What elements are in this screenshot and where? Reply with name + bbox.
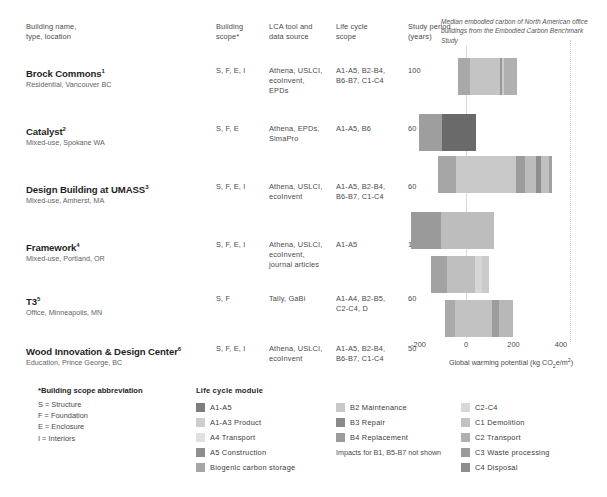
building-name: Wood Innovation & Design Center6 [26, 344, 190, 357]
chart-bar-segment [455, 300, 493, 337]
legend-swatch-icon [196, 463, 205, 472]
legend-swatch-icon [461, 418, 470, 427]
life-cycle-legend-title: Life cycle module [196, 386, 596, 395]
chart-bar-segment [447, 256, 476, 293]
legend-swatch-icon [336, 418, 345, 427]
row-life-cycle-scope: A1-A5, B2-B4,B6-B7, C1-C4 [336, 66, 404, 86]
x-axis-tick-label: -200 [411, 340, 426, 349]
legend-item-label: C4 Disposal [475, 463, 518, 472]
chart-bar-segment [438, 156, 457, 193]
row-building-scope: S, F, E, I [216, 182, 262, 192]
legend-footnote: Impacts for B1, B5-B7 not shown [336, 448, 476, 457]
legend-item-label: A4 Transport [210, 433, 255, 442]
legend-swatch-icon [336, 403, 345, 412]
row-life-cycle-scope: A1-A4, B2-B5,C2-C4, D [336, 294, 404, 314]
legend-item: C2-C4 [461, 400, 601, 415]
column-header-life-cycle-scope: Life cyclescope [336, 22, 404, 41]
chart-bar [419, 114, 477, 151]
life-cycle-legend-column-b: B2 MaintenanceB3 RepairB4 ReplacementImp… [336, 400, 476, 457]
chart-bar-segment [458, 58, 469, 95]
legend-item: Biogenic carbon storage [196, 460, 336, 475]
legend-item: B3 Repair [336, 415, 476, 430]
figure-root: Building name,type, location Buildingsco… [0, 0, 607, 497]
row-life-cycle-scope: A1-A5 [336, 240, 404, 250]
chart-bar [411, 212, 494, 249]
life-cycle-module-legend: Life cycle module A1-A5A1-A3 ProductA4 T… [196, 386, 596, 400]
row-building-cell: Framework4Mixed-use, Portland, OR [26, 240, 190, 264]
chart-bar-segment [549, 156, 552, 193]
legend-item: C1 Demolition [461, 415, 601, 430]
building-scope-legend-item: S = Structure [38, 399, 188, 410]
chart-bar-segment [445, 300, 455, 337]
x-axis-tick-label: 200 [507, 340, 519, 349]
chart-bar [431, 256, 489, 293]
row-lca-tool: Tally, GaBi [269, 294, 332, 304]
building-name: Design Building at UMASS3 [26, 182, 190, 195]
x-axis: -2000200400 [415, 340, 607, 354]
life-cycle-legend-column-a: A1-A5A1-A3 ProductA4 TransportA5 Constru… [196, 400, 336, 475]
chart-bar-segment [525, 156, 536, 193]
x-axis-title-pre: Global warming potential (kg CO [449, 358, 553, 367]
column-header-building-scope: Buildingscope* [216, 22, 262, 41]
chart-bar-segment [431, 256, 447, 293]
legend-item: A1-A5 [196, 400, 336, 415]
legend-item-label: C2-C4 [475, 403, 498, 412]
building-type-location: Education, Prince George, BC [26, 358, 190, 368]
row-building-scope: S, F, E, I [216, 66, 262, 76]
building-scope-legend-item: F = Foundation [38, 410, 188, 421]
column-header-lca-tool: LCA tool anddata source [269, 22, 332, 41]
chart-bar-segment [482, 256, 489, 293]
row-building-cell: Catalyst2Mixed-use, Spokane WA [26, 124, 190, 148]
row-building-scope: S, F [216, 294, 262, 304]
legend-item: A5 Construction [196, 445, 336, 460]
legend-swatch-icon [461, 463, 470, 472]
row-building-cell: Design Building at UMASS3Mixed-use, Amhe… [26, 182, 190, 206]
legend-item-label: A1-A5 [210, 403, 232, 412]
legend-item-label: C2 Transport [475, 433, 521, 442]
chart-bar-segment [442, 114, 477, 151]
chart-bar [458, 58, 517, 95]
x-axis-tick-label: 400 [555, 340, 567, 349]
building-scope-legend-title: *Building scope abbreviation [38, 386, 188, 395]
legend-item: A4 Transport [196, 430, 336, 445]
building-name-footnote: 6 [178, 346, 181, 352]
legend-swatch-icon [196, 418, 205, 427]
chart-bar-segment [541, 156, 549, 193]
row-life-cycle-scope: A1-A5, B6 [336, 124, 404, 134]
building-name: Catalyst2 [26, 124, 190, 137]
building-name-footnote: 1 [101, 68, 104, 74]
row-life-cycle-scope: A1-A5, B2-B4,B6-B7, C1-C4 [336, 344, 404, 364]
legend-swatch-icon [461, 433, 470, 442]
legend-item: B4 Replacement [336, 430, 476, 445]
life-cycle-legend-column-c: C2-C4C1 DemolitionC2 TransportC3 Waste p… [461, 400, 601, 475]
row-building-cell: Brock Commons1Residential, Vancouver BC [26, 66, 190, 90]
legend-swatch-icon [336, 433, 345, 442]
legend-item-label: B2 Maintenance [350, 403, 407, 412]
legend-item-label: B4 Replacement [350, 433, 408, 442]
legend-item-label: B3 Repair [350, 418, 385, 427]
column-header-building-name: Building name,type, location [26, 22, 190, 41]
chart-bar-segment [419, 114, 442, 151]
legend-swatch-icon [196, 448, 205, 457]
building-name-footnote: 4 [76, 242, 79, 248]
chart-panel: Median embodied carbon of North American… [415, 0, 607, 380]
row-lca-tool: Athena, EPDs,SimaPro [269, 124, 332, 144]
building-scope-legend-list: S = StructureF = FoundationE = Enclosure… [38, 399, 188, 444]
legend-area: *Building scope abbreviation S = Structu… [0, 386, 607, 497]
chart-bar-segment [516, 156, 525, 193]
row-lca-tool: Athena, USLCI,ecoInvent,EPDs [269, 66, 332, 95]
legend-item-label: C3 Waste processing [475, 448, 550, 457]
chart-bar-segment [456, 156, 516, 193]
chart-bar-segment [492, 300, 499, 337]
row-building-cell: T35Office, Minneapolis, MN [26, 294, 190, 318]
legend-item: A1-A3 Product [196, 415, 336, 430]
row-building-scope: S, F, E [216, 124, 262, 134]
study-table: Building name,type, location Buildingsco… [26, 22, 426, 56]
building-type-location: Mixed-use, Amherst, MA [26, 196, 190, 206]
building-type-location: Office, Minneapolis, MN [26, 308, 190, 318]
building-type-location: Mixed-use, Spokane WA [26, 138, 190, 148]
legend-item: B2 Maintenance [336, 400, 476, 415]
legend-item: C2 Transport [461, 430, 601, 445]
legend-item-label: Biogenic carbon storage [210, 463, 295, 472]
building-name: Framework4 [26, 240, 190, 253]
